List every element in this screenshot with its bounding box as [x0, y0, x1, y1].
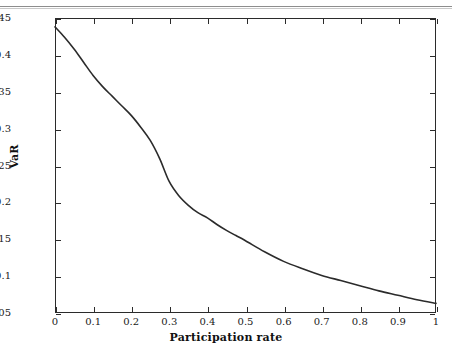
x-tick-label: 0.3: [149, 316, 189, 328]
x-axis-title: Participation rate: [0, 331, 452, 344]
var-curve-path: [55, 27, 436, 304]
x-tick-label: 0.1: [73, 316, 113, 328]
y-tick-label: 0.2: [0, 196, 11, 207]
x-tick-label: 0.9: [378, 316, 418, 328]
y-tick-mark: [430, 314, 435, 315]
y-tick-mark: [56, 314, 61, 315]
y-tick-label: 0.45: [0, 12, 11, 23]
x-tick-label: 0.4: [187, 316, 227, 328]
y-tick-label: 0.15: [0, 233, 11, 244]
y-tick-label: 0.25: [0, 160, 11, 171]
x-tick-mark: [437, 19, 438, 24]
x-tick-label: 0.6: [264, 316, 304, 328]
var-curve: [55, 18, 436, 313]
x-tick-label: 0.7: [302, 316, 342, 328]
y-axis-title: VaR: [8, 137, 21, 177]
x-tick-mark: [437, 307, 438, 312]
y-tick-label: 0.35: [0, 86, 11, 97]
var-participation-rate-chart: Participation rate VaR 00.10.20.30.40.50…: [0, 0, 452, 360]
x-tick-label: 0.8: [340, 316, 380, 328]
y-tick-label: 0.1: [0, 270, 11, 281]
y-tick-label: 0.4: [0, 49, 11, 60]
y-tick-label: 0.3: [0, 123, 11, 134]
x-tick-label: 0.2: [111, 316, 151, 328]
x-tick-label: 0.5: [226, 316, 266, 328]
x-tick-label: 0: [35, 316, 75, 328]
x-tick-label: 1: [416, 316, 452, 328]
y-tick-label: 0.05: [0, 307, 11, 318]
